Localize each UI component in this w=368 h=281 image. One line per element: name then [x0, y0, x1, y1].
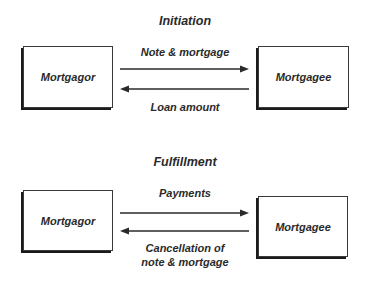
flow-arrows — [0, 0, 368, 281]
arrow-right-icon — [120, 66, 249, 73]
arrow-left-icon — [120, 86, 249, 93]
arrow-left-icon — [120, 228, 249, 235]
arrow-right-icon — [120, 210, 249, 217]
